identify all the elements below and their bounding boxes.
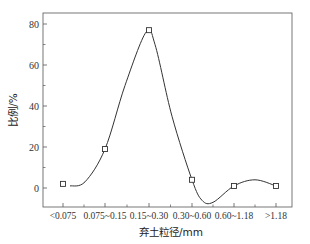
x-axis-title: 弃土粒径/mm <box>139 226 203 238</box>
data-point-marker <box>147 28 152 33</box>
y-tick-label: 40 <box>29 101 39 112</box>
x-axis-ticks: <0.0750.075~0.150.15~0.300.30~0.600.60~1… <box>50 203 288 221</box>
y-tick-label: 20 <box>29 142 39 153</box>
data-point-marker <box>190 177 195 182</box>
x-tick-label: >1.18 <box>265 211 287 221</box>
data-point-marker <box>232 183 237 188</box>
y-tick-label: 80 <box>29 19 39 30</box>
data-point-marker <box>274 183 279 188</box>
y-tick-label: 60 <box>29 60 39 71</box>
x-tick-label: 0.075~0.15 <box>83 211 126 221</box>
y-tick-label: 0 <box>34 183 39 194</box>
x-tick-label: 0.60~1.18 <box>215 211 254 221</box>
data-curve <box>70 29 276 204</box>
data-point-marker <box>61 181 66 186</box>
x-tick-label: <0.075 <box>50 211 77 221</box>
plot-frame <box>43 13 292 207</box>
data-point-marker <box>103 147 108 152</box>
y-axis-title: 比例/% <box>7 93 19 127</box>
x-tick-label: 0.15~0.30 <box>130 211 169 221</box>
chart-svg: 020406080 <0.0750.075~0.150.15~0.300.30~… <box>0 0 310 244</box>
x-tick-label: 0.30~0.60 <box>173 211 212 221</box>
y-axis-ticks: 020406080 <box>29 19 47 194</box>
